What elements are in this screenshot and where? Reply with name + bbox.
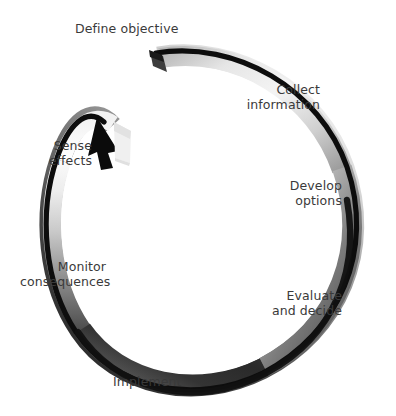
- label-line: and decide: [252, 303, 342, 318]
- label-line: Collect: [202, 82, 320, 97]
- diagram-canvas: Define objective Collect information Dev…: [0, 0, 396, 416]
- label-line: consequences: [20, 274, 106, 289]
- label-implement: Implement: [113, 374, 182, 389]
- label-monitor-consequences: Monitor consequences: [20, 259, 106, 289]
- label-line: effects: [40, 153, 92, 168]
- label-sense-effects: Sense effects: [40, 138, 92, 168]
- label-define-objective: Define objective: [75, 21, 178, 36]
- cycle-ribbon-graphic: [0, 0, 396, 416]
- label-line: Implement: [113, 374, 182, 389]
- label-line: information: [202, 97, 320, 112]
- label-line: Sense: [40, 138, 92, 153]
- label-line: Define objective: [75, 21, 178, 36]
- label-line: Develop: [268, 178, 342, 193]
- label-line: options: [268, 193, 342, 208]
- label-line: Evaluate: [252, 288, 342, 303]
- label-evaluate-and-decide: Evaluate and decide: [252, 288, 342, 318]
- label-line: Monitor: [20, 259, 106, 274]
- label-collect-information: Collect information: [202, 82, 320, 112]
- label-develop-options: Develop options: [268, 178, 342, 208]
